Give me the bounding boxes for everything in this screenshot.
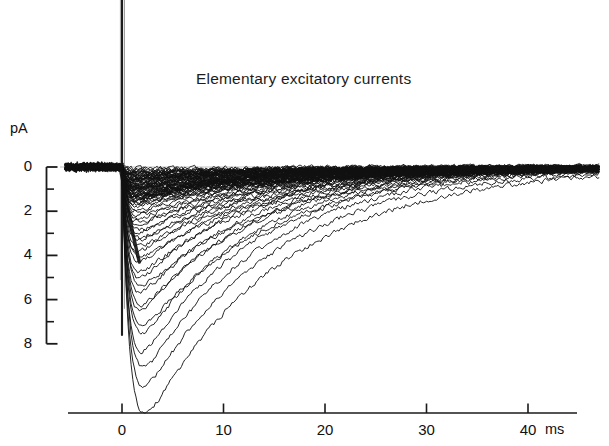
y-tick-label: 0	[10, 157, 32, 174]
y-tick-label: 4	[10, 245, 32, 262]
x-tick-label: 10	[204, 421, 244, 438]
x-tick-label: 0	[102, 421, 142, 438]
chart-canvas	[0, 0, 609, 446]
x-tick-label: 20	[305, 421, 345, 438]
y-tick-label: 6	[10, 290, 32, 307]
y-tick-label: 2	[10, 201, 32, 218]
chart-figure: Elementary excitatory currents pA ms 024…	[0, 0, 609, 446]
x-tick-label: 40	[508, 421, 548, 438]
y-axis-unit-label: pA	[10, 120, 28, 136]
chart-title: Elementary excitatory currents	[196, 70, 411, 88]
current-traces-group	[65, 162, 599, 413]
x-tick-label: 30	[407, 421, 447, 438]
x-axis	[68, 404, 577, 414]
y-tick-label: 8	[10, 334, 32, 351]
